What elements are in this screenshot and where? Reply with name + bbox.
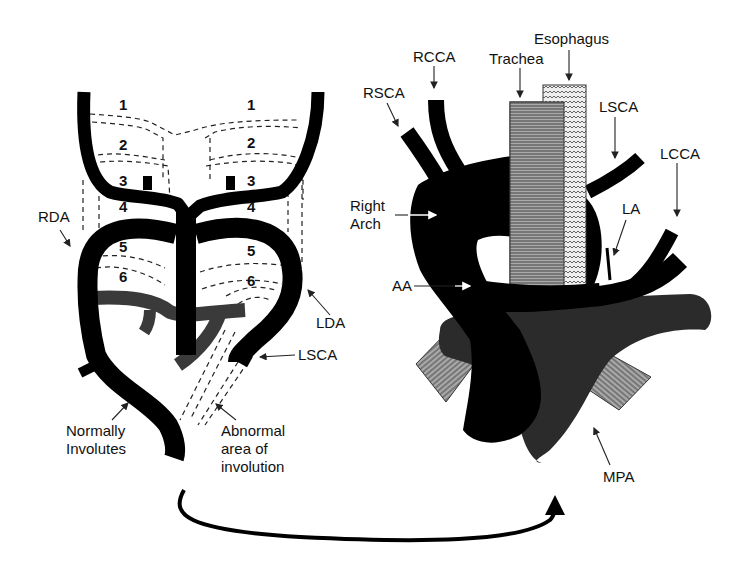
label-abnormal-line3: involution: [221, 458, 284, 475]
label-rda: RDA: [38, 208, 70, 225]
arch-number-1-left: 1: [119, 96, 127, 113]
left-panel-embryonic-arches: 1 1 2 2 3 3 4 4 5 5 6 6 RDA LDA LSCA Nor…: [38, 92, 345, 475]
aortic-arch-diagram: 1 1 2 2 3 3 4 4 5 5 6 6 RDA LDA LSCA Nor…: [0, 0, 749, 567]
pointer-lsca-left: [260, 355, 295, 357]
pulmonary-arch-branches: [92, 298, 245, 365]
label-right-arch-line1: Right: [350, 197, 386, 214]
pointer-mpa: [594, 428, 610, 465]
label-abnormal-line2: area of: [221, 440, 269, 457]
pointer-rsca: [387, 103, 398, 126]
label-rcca: RCCA: [413, 48, 456, 65]
right-panel-right-aortic-arch: RCCA RSCA Trachea Esophagus LSCA LCCA Ri…: [350, 30, 711, 485]
arch-number-2-right: 2: [247, 134, 255, 151]
ligamentum-line: [607, 248, 610, 280]
arch-number-3-left: 3: [119, 172, 127, 189]
transition-arrow: [180, 490, 555, 540]
pointer-rda: [60, 230, 70, 246]
arch-number-1-right: 1: [247, 96, 255, 113]
arch-number-2-left: 2: [119, 136, 127, 153]
label-normally-line1: Normally: [66, 422, 126, 439]
rcca-vessel: [436, 100, 458, 170]
label-right-arch-line2: Arch: [350, 215, 381, 232]
label-mpa: MPA: [603, 468, 634, 485]
label-rsca: RSCA: [363, 84, 405, 101]
label-lcca: LCCA: [660, 145, 700, 162]
arch-number-6-left: 6: [119, 268, 127, 285]
label-la: LA: [622, 200, 640, 217]
pointer-la: [614, 220, 626, 255]
label-lsca-left: LSCA: [298, 346, 337, 363]
arch-number-6-right: 6: [247, 272, 255, 289]
left-vessels: [80, 92, 318, 458]
pointer-abnormal-area: [216, 404, 236, 420]
label-lsca-right: LSCA: [599, 98, 638, 115]
pointer-lda: [308, 290, 330, 315]
arch-number-5-left: 5: [119, 238, 127, 255]
arch-number-4-left: 4: [119, 198, 128, 215]
label-abnormal-line1: Abnormal: [221, 422, 285, 439]
pointer-normally-involutes: [112, 403, 128, 420]
label-lda: LDA: [316, 314, 345, 331]
arch-number-5-right: 5: [247, 242, 255, 259]
label-trachea: Trachea: [489, 50, 544, 67]
label-esophagus: Esophagus: [534, 30, 609, 47]
arch-number-3-right: 3: [247, 172, 255, 189]
lsca-vessel: [588, 158, 640, 192]
label-aa: AA: [392, 277, 412, 294]
arch-number-4-right: 4: [247, 198, 256, 215]
label-normally-line2: Involutes: [66, 440, 126, 457]
